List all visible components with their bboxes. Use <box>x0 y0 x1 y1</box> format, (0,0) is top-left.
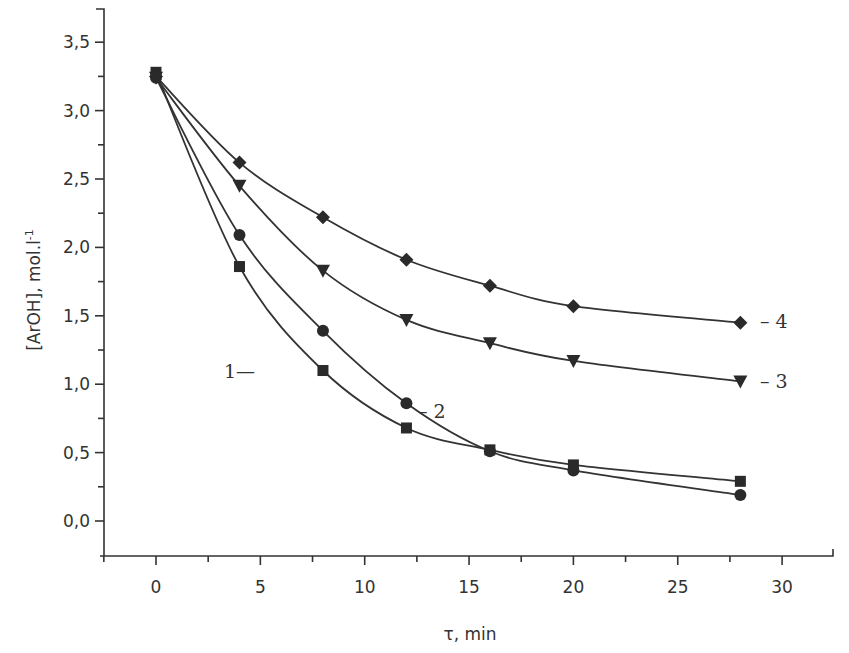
x-axis-line <box>100 549 833 556</box>
circle-marker <box>233 229 245 241</box>
triangle-down-marker <box>316 265 330 278</box>
y-tick-label: 1,0 <box>63 374 90 394</box>
x-tick-label: 10 <box>354 577 376 597</box>
y-tick-label: 1,5 <box>63 306 90 326</box>
y-axis-title-sup: -1 <box>23 229 36 240</box>
x-tick-label: 5 <box>255 577 266 597</box>
curve-label-3: – 3 <box>760 370 788 392</box>
x-tick-label: 25 <box>667 577 689 597</box>
circle-marker <box>400 397 412 409</box>
axes: 0,00,51,01,52,02,53,03,5051015202530 <box>63 9 833 597</box>
curve-1 <box>156 72 740 481</box>
y-tick-label: 2,0 <box>63 237 90 257</box>
svg-text:[ArOH], mol.l-1: [ArOH], mol.l-1 <box>23 229 44 351</box>
square-marker <box>401 422 412 433</box>
curves <box>156 72 740 495</box>
circle-marker <box>567 464 579 476</box>
y-axis-title: [ArOH], mol.l-1 <box>23 229 44 351</box>
diamond-marker <box>733 316 747 330</box>
y-tick-label: 2,5 <box>63 169 90 189</box>
diamond-marker <box>399 253 413 267</box>
circle-marker <box>317 325 329 337</box>
triangle-down-marker <box>399 314 413 327</box>
y-tick-label: 3,0 <box>63 101 90 121</box>
x-tick-label: 15 <box>458 577 480 597</box>
square-marker <box>234 261 245 272</box>
x-axis-title: τ, min <box>443 624 496 644</box>
y-tick-label: 0,0 <box>63 511 90 531</box>
y-tick-label: 0,5 <box>63 443 90 463</box>
diamond-marker <box>316 210 330 224</box>
y-axis-line <box>96 9 104 556</box>
x-tick-label: 30 <box>771 577 793 597</box>
markers <box>149 67 747 501</box>
curve-label-1: 1— <box>224 360 255 382</box>
diamond-marker <box>483 279 497 293</box>
circle-marker <box>484 445 496 457</box>
curve-label-2: – 2 <box>418 400 446 422</box>
curve-4 <box>156 76 740 322</box>
square-marker <box>317 365 328 376</box>
curve-label-4: – 4 <box>760 310 788 332</box>
y-axis-title-text: [ArOH], mol.l <box>24 240 44 351</box>
curve-2 <box>156 78 740 495</box>
y-tick-label: 3,5 <box>63 32 90 52</box>
diamond-marker <box>566 299 580 313</box>
triangle-down-marker <box>733 375 747 388</box>
x-tick-label: 20 <box>563 577 585 597</box>
square-marker <box>735 476 746 487</box>
chart: 0,00,51,01,52,02,53,03,5051015202530 τ, … <box>0 0 849 653</box>
x-tick-label: 0 <box>151 577 162 597</box>
circle-marker <box>734 489 746 501</box>
curve-3 <box>156 78 740 382</box>
